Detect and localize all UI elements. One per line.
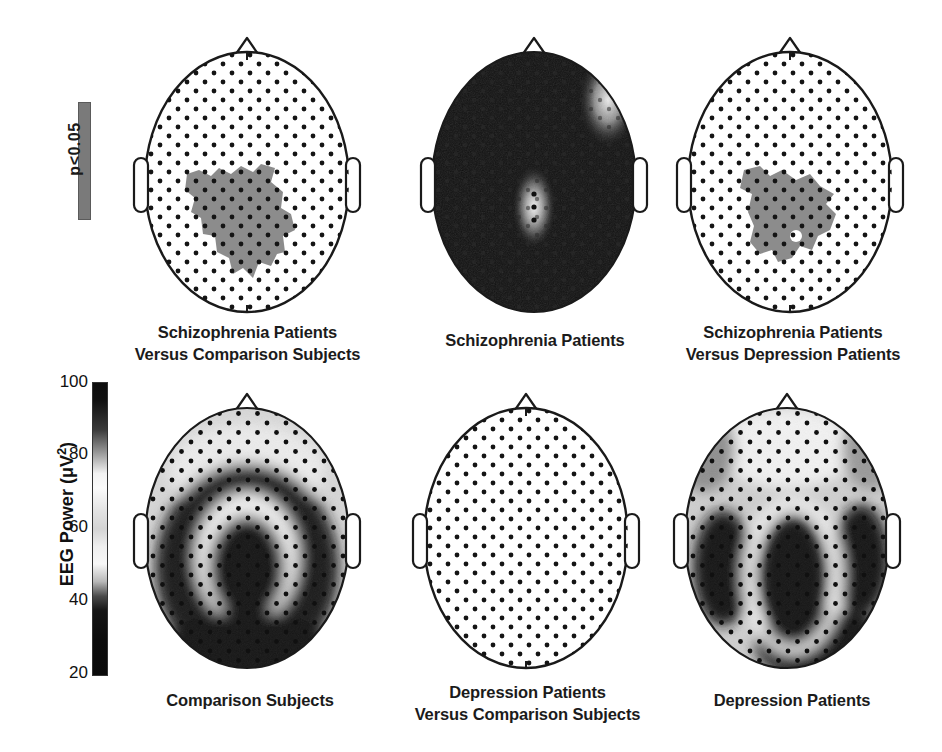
electrode-dot — [531, 204, 536, 209]
electrode-array — [125, 22, 370, 317]
power-colorbar — [92, 382, 108, 676]
caption-line-2: Versus Depression Patients — [648, 344, 938, 366]
caption-line-1: Comparison Subjects — [130, 690, 370, 712]
head-map-schizophrenia-vs-comparison — [125, 22, 370, 317]
right-ear-marker — [633, 158, 647, 212]
topomap-panel-comparison-subjects-power — [125, 378, 370, 673]
topomap-panel-schizophrenia-power — [412, 22, 657, 317]
caption-schizophrenia-vs-depression: Schizophrenia Patients Versus Depression… — [648, 322, 938, 366]
topomap-panel-schizophrenia-vs-depression — [668, 22, 913, 317]
head-map-comparison-subjects — [125, 378, 370, 673]
power-axis-title-suffix: ) — [57, 442, 77, 448]
caption-depression-patients: Depression Patients — [672, 690, 912, 712]
power-axis-title-main: EEG Power (μV — [57, 455, 77, 586]
electrode-dot — [531, 217, 536, 222]
topomap-panel-depression-vs-comparison — [404, 378, 649, 673]
electrode-array — [665, 378, 910, 673]
caption-schizophrenia-vs-comparison: Schizophrenia Patients Versus Comparison… — [105, 322, 390, 366]
significance-legend: p<0.05 — [30, 100, 120, 225]
caption-line-1: Schizophrenia Patients — [648, 322, 938, 344]
caption-schizophrenia-power: Schizophrenia Patients — [400, 330, 670, 352]
power-axis-title: EEG Power (μV2) — [54, 404, 78, 624]
caption-line-2: Versus Comparison Subjects — [105, 344, 390, 366]
colorbar-tick-100: 100 — [42, 372, 88, 392]
figure-root: p<0.05 100 80 60 40 20 EEG Power (μV2) — [0, 0, 942, 752]
electrode-array — [412, 22, 657, 317]
power-field-group — [665, 378, 910, 673]
power-field-group — [125, 378, 370, 673]
right-ear-marker — [886, 514, 900, 568]
caption-line-1: Depression Patients — [390, 682, 665, 704]
significance-legend-label: p<0.05 — [66, 94, 84, 204]
electrode-array — [125, 378, 370, 673]
caption-line-2: Versus Comparison Subjects — [390, 704, 665, 726]
topomap-panel-depression-power — [665, 378, 910, 673]
electrode-array — [404, 378, 649, 673]
head-map-depression-vs-comparison — [404, 378, 649, 673]
power-field-group — [412, 22, 657, 317]
colorbar-tick-20: 20 — [42, 663, 88, 683]
caption-line-1: Schizophrenia Patients — [400, 330, 670, 352]
left-ear-marker — [421, 158, 435, 212]
power-colorbar-legend: 100 80 60 40 20 EEG Power (μV2) — [12, 372, 120, 682]
electrode-dot — [531, 191, 536, 196]
power-axis-title-exponent: 2 — [54, 448, 69, 455]
topomap-panel-schizophrenia-vs-comparison — [125, 22, 370, 317]
head-map-depression-patients — [665, 378, 910, 673]
left-ear-marker — [674, 514, 688, 568]
left-ear-marker — [134, 514, 148, 568]
caption-line-1: Schizophrenia Patients — [105, 322, 390, 344]
caption-comparison-subjects: Comparison Subjects — [130, 690, 370, 712]
electrode-array — [668, 22, 913, 317]
caption-line-1: Depression Patients — [672, 690, 912, 712]
head-map-schizophrenia-vs-depression — [668, 22, 913, 317]
caption-depression-vs-comparison: Depression Patients Versus Comparison Su… — [390, 682, 665, 726]
head-map-schizophrenia-power — [412, 22, 657, 317]
right-ear-marker — [346, 514, 360, 568]
